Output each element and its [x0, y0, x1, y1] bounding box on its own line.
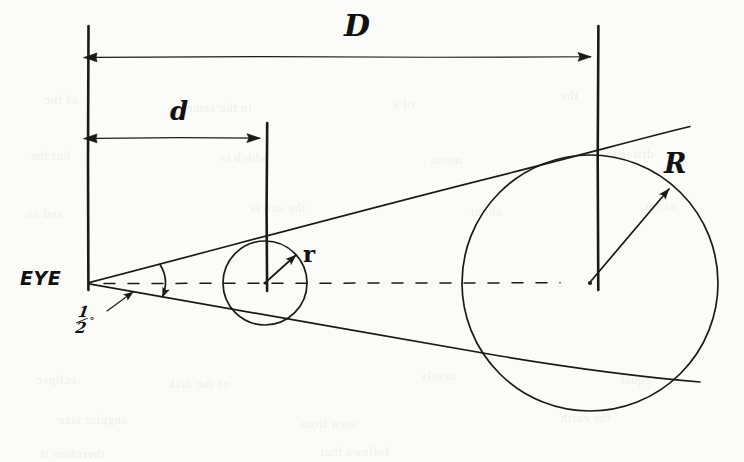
label-radius-near: r	[303, 240, 315, 267]
label-observer-eye: EYE	[20, 267, 61, 289]
far-radius-arrow	[591, 189, 669, 281]
far-vertical-line	[598, 26, 599, 290]
label-distance-near: d	[170, 96, 188, 126]
dimension-arrow-d	[96, 138, 260, 139]
diagram-page: of thein the sameof athebut thewhich ism…	[0, 0, 744, 462]
near-vertical-line	[267, 123, 268, 291]
dimension-arrow-D	[96, 57, 591, 58]
label-angle-half-degree: 1 2 °	[76, 305, 93, 337]
degree-symbol: °	[89, 315, 94, 326]
label-distance-far: D	[344, 8, 370, 43]
angle-leader-line	[107, 292, 133, 311]
tangent-ray-upper	[89, 127, 690, 283]
diagram-canvas	[0, 0, 744, 462]
near-radius-arrow	[266, 255, 296, 282]
eye-vertical-line	[88, 26, 89, 290]
optical-axis-dashed	[104, 283, 560, 284]
tangent-ray-lower	[89, 284, 700, 382]
vertical-reference-lines	[88, 26, 598, 291]
label-radius-far: R	[664, 148, 686, 179]
angle-arc	[160, 265, 165, 298]
